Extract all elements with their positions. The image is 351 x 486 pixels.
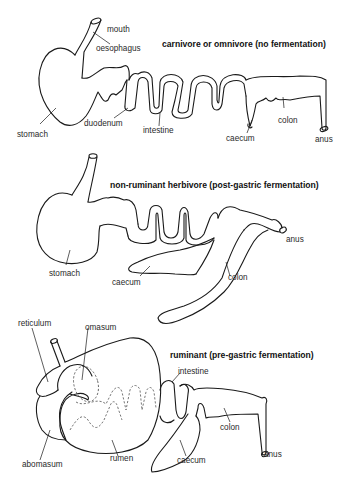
label-abomasum: abomasum	[22, 461, 63, 469]
label-intestine-ruminant: intestine	[178, 368, 209, 376]
herbivore-title: non-ruminant herbivore (post-gastric fer…	[110, 181, 319, 190]
label-reticulum: reticulum	[18, 320, 51, 328]
label-stomach-carnivore: stomach	[17, 131, 48, 139]
label-caecum-herbivore: caecum	[112, 279, 141, 287]
label-anus-ruminant: anus	[264, 451, 282, 459]
label-intestine-carnivore: intestine	[143, 127, 174, 135]
label-duodenum: duodenum	[84, 120, 123, 128]
label-colon-ruminant: colon	[220, 424, 240, 432]
label-colon-carnivore: colon	[278, 117, 298, 125]
label-caecum-carnivore: caecum	[226, 135, 255, 143]
label-mouth: mouth	[107, 26, 130, 34]
ruminant-title: ruminant (pre-gastric fermentation)	[170, 351, 314, 360]
label-anus-herbivore: anus	[286, 236, 304, 244]
label-omasum: omasum	[85, 324, 116, 332]
label-colon-herbivore: colon	[228, 274, 248, 282]
label-caecum-ruminant: caecum	[177, 457, 206, 465]
carnivore-title: carnivore or omnivore (no fermentation)	[162, 40, 326, 49]
digestive-systems-diagram: carnivore or omnivore (no fermentation) …	[0, 0, 351, 486]
label-stomach-herbivore: stomach	[49, 270, 80, 278]
label-rumen: rumen	[110, 455, 133, 463]
label-oesophagus: oesophagus	[96, 45, 141, 53]
label-anus-carnivore: anus	[315, 136, 333, 144]
